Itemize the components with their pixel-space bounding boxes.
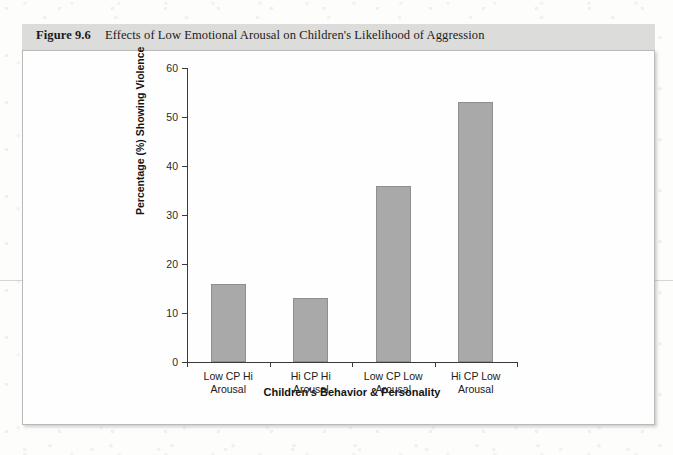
figure-caption: Figure 9.6Effects of Low Emotional Arous… [36,28,485,43]
figure-number: Figure 9.6 [36,28,91,42]
figure-frame [22,50,655,425]
page-background: Figure 9.6Effects of Low Emotional Arous… [0,0,673,455]
figure-title: Effects of Low Emotional Arousal on Chil… [105,28,485,42]
